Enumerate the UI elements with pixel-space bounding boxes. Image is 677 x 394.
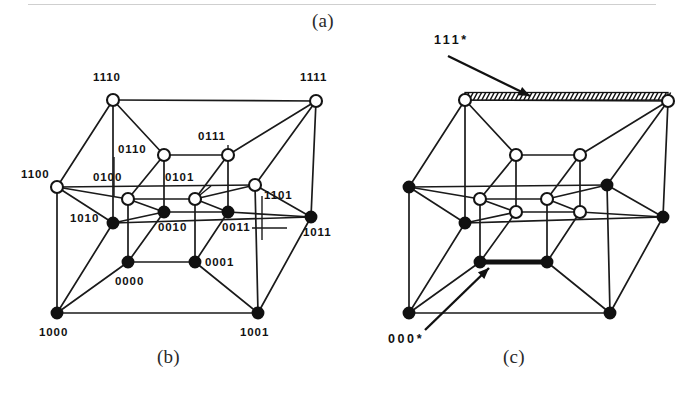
cube-edge: [128, 155, 164, 199]
hypercube-node-1000: [404, 308, 415, 319]
hypercube-node-0011: [223, 207, 234, 218]
cube-edge: [255, 101, 316, 185]
edge-group-c: [409, 100, 668, 313]
hypercube-node-1011: [658, 212, 669, 223]
cube-edge: [57, 185, 255, 187]
cube-edge: [113, 217, 311, 223]
node-label-0010: 0010: [158, 221, 187, 233]
hypercube-node-1011: [306, 212, 317, 223]
node-label-1011: 1011: [303, 226, 332, 238]
cube-edge: [580, 212, 663, 217]
figure-root: (a) 111011111100110110001001101010110110…: [0, 0, 677, 394]
cube-edge: [409, 185, 607, 187]
hypercube-node-0101: [541, 193, 553, 205]
hypercube-node-0110: [510, 149, 522, 161]
node-label-1110: 1110: [93, 71, 121, 83]
hatched-edge-111star: [465, 93, 671, 101]
hypercube-node-0010: [159, 207, 170, 218]
hypercube-node-0010: [510, 206, 522, 218]
hypercube-node-1010: [108, 218, 119, 229]
cube-edge: [607, 185, 663, 217]
hypercube-node-1110: [459, 94, 471, 106]
cube-edge: [128, 212, 164, 262]
cube-edge: [580, 101, 668, 155]
cube-edge: [57, 262, 128, 313]
node-label-0100: 0100: [93, 171, 122, 183]
hypercube-node-0100: [474, 193, 486, 205]
panel-caption-b: (b): [157, 346, 180, 368]
hypercube-node-1100: [404, 182, 415, 193]
cube-edge: [255, 185, 258, 313]
cube-edge: [311, 101, 316, 217]
cube-edge: [607, 101, 668, 185]
hypercube-node-0111: [574, 149, 586, 161]
node-label-1101: 1101: [264, 189, 293, 201]
cube-edge: [465, 217, 663, 223]
cube-edge: [547, 262, 610, 313]
hypercube-node-0101: [189, 193, 201, 205]
node-label-0101: 0101: [165, 171, 194, 183]
node-label-0001: 0001: [205, 256, 234, 268]
node-label-group-b: 1110111111001101100010011010101101100111…: [21, 71, 332, 338]
cube-edge: [57, 223, 113, 313]
cube-edge: [228, 101, 316, 155]
panel-caption-c: (c): [503, 346, 525, 368]
node-label-1100: 1100: [21, 168, 50, 180]
node-label-1000: 1000: [39, 326, 68, 338]
hypercube-node-1111: [662, 95, 674, 107]
callout-label-111star: 111*: [434, 33, 469, 47]
callout-arrow-shaft-000star: [425, 268, 489, 330]
cube-edge: [228, 212, 311, 217]
hypercube-node-1001: [253, 308, 264, 319]
node-label-0011: 0011: [222, 221, 251, 233]
cube-edge: [663, 101, 668, 217]
hypercube-node-0001: [542, 257, 553, 268]
hypercube-node-1000: [52, 308, 63, 319]
cube-edge: [195, 262, 258, 313]
hypercube-node-1010: [460, 218, 471, 229]
hypercube-node-0100: [122, 193, 134, 205]
hypercube-node-1001: [605, 308, 616, 319]
hypercube-node-0000: [123, 257, 134, 268]
node-label-0000: 0000: [115, 275, 144, 287]
hypercube-diagram-c: 111*000*: [352, 0, 677, 394]
hypercube-node-1100: [51, 181, 63, 193]
node-group-c: [404, 94, 674, 318]
callout-arrow-shaft-111star: [448, 56, 530, 96]
cube-edge: [409, 100, 465, 187]
hypercube-diagram-b: 1110111111001101100010011010101101100111…: [0, 0, 352, 340]
hypercube-node-1111: [310, 95, 322, 107]
node-label-1111: 1111: [300, 71, 327, 83]
hypercube-node-0110: [158, 149, 170, 161]
node-label-0110: 0110: [118, 143, 147, 155]
node-label-1010: 1010: [70, 212, 99, 224]
hypercube-node-0111: [222, 149, 234, 161]
hypercube-node-1101: [602, 180, 613, 191]
cube-edge: [113, 100, 316, 101]
hypercube-node-0011: [574, 206, 586, 218]
node-label-1001: 1001: [240, 326, 269, 338]
hypercube-node-1110: [107, 94, 119, 106]
cube-edge: [480, 212, 516, 262]
cube-edge: [610, 217, 663, 313]
hypercube-node-1101: [249, 179, 261, 191]
callout-label-000star: 000*: [388, 332, 424, 346]
node-group-b: [51, 94, 322, 318]
edge-group-b: [57, 100, 316, 313]
cube-edge: [607, 185, 610, 313]
hypercube-node-0000: [475, 257, 486, 268]
cube-edge: [480, 155, 516, 199]
cube-edge: [465, 100, 516, 155]
node-label-0111: 0111: [198, 130, 226, 142]
hypercube-node-0001: [190, 257, 201, 268]
